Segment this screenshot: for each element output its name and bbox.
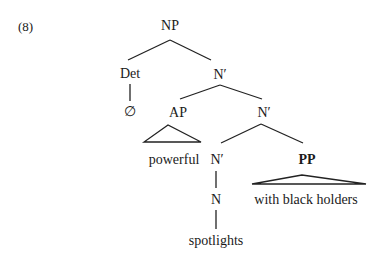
leaf-with-black-holders: with black holders (254, 192, 357, 208)
node-det: Det (120, 66, 140, 82)
node-empty-det: ∅ (124, 104, 136, 120)
example-number: (8) (18, 19, 33, 35)
node-ap: AP (169, 105, 187, 121)
node-np: NP (161, 18, 179, 34)
node-pp: PP (298, 152, 315, 168)
node-n: N (211, 192, 221, 208)
leaf-spotlights: spotlights (189, 233, 243, 249)
node-nbar-1: N′ (213, 67, 226, 83)
node-nbar-2: N′ (257, 105, 270, 121)
leaf-powerful: powerful (149, 152, 200, 168)
tree-edges (0, 0, 383, 271)
node-nbar-3: N′ (210, 152, 223, 168)
